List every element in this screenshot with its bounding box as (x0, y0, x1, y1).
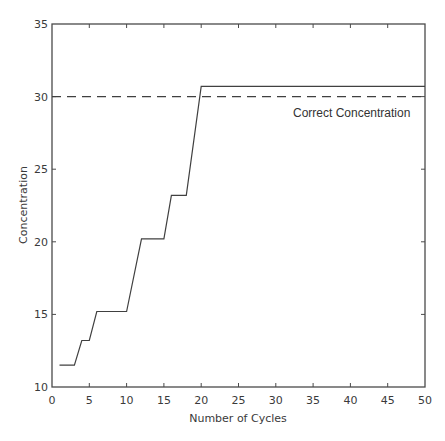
y-tick-labels: 101520253035 (34, 18, 48, 394)
x-tick-label: 15 (157, 394, 171, 407)
x-tick-label: 20 (194, 394, 208, 407)
x-tick-label: 35 (306, 394, 320, 407)
correct-concentration-annotation: Correct Concentration (293, 106, 410, 120)
y-axis-label: Concentration (17, 166, 30, 244)
y-tick-label: 20 (34, 236, 48, 249)
x-tick-label: 10 (120, 394, 134, 407)
x-tick-labels: 05101520253035404550 (49, 394, 433, 407)
y-tick-label: 15 (34, 308, 48, 321)
x-tick-label: 0 (49, 394, 56, 407)
x-tick-label: 25 (232, 394, 246, 407)
y-tick-label: 35 (34, 18, 48, 31)
x-axis-label: Number of Cycles (189, 412, 287, 425)
y-tick-label: 25 (34, 163, 48, 176)
plot-border (52, 24, 425, 387)
x-tick-label: 45 (381, 394, 395, 407)
data-series (52, 86, 425, 365)
y-tick-label: 30 (34, 91, 48, 104)
x-tick-label: 5 (86, 394, 93, 407)
concentration-line (60, 86, 426, 365)
y-tick-label: 10 (34, 381, 48, 394)
x-tick-label: 50 (418, 394, 432, 407)
x-tick-label: 40 (343, 394, 357, 407)
x-tick-label: 30 (269, 394, 283, 407)
plot-frame (52, 24, 425, 387)
axis-ticks (52, 24, 425, 387)
line-chart: 05101520253035404550 101520253035 Correc… (0, 0, 445, 441)
